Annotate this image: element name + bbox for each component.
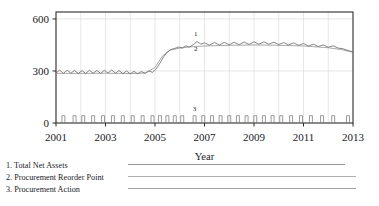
x-axis-tick-label: 2007: [194, 131, 217, 143]
x-axis-tick-label: 2001: [45, 131, 67, 143]
legend-label-3: 3. Procurement Action: [6, 185, 80, 194]
x-axis-tick-label: 2003: [95, 131, 118, 143]
chart-figure: 20012003200520072009201120130300600Year1…: [0, 0, 379, 206]
y-axis-tick-label: 0: [44, 117, 50, 129]
x-axis-tick-label: 2009: [243, 131, 266, 143]
curve-annotation-2: 2: [194, 45, 198, 53]
y-axis-tick-label: 300: [33, 65, 50, 77]
legend-label-1: 1. Total Net Assets: [6, 161, 68, 170]
curve-annotation-3: 3: [193, 105, 197, 113]
x-axis-tick-label: 2005: [144, 131, 167, 143]
series-procurement-action: [62, 116, 350, 123]
x-axis-title: Year: [195, 151, 215, 162]
x-axis-tick-label: 2013: [342, 131, 365, 143]
chart-svg: 20012003200520072009201120130300600Year1…: [0, 0, 379, 206]
y-axis-tick-label: 600: [33, 13, 50, 25]
legend-label-2: 2. Procurement Reorder Point: [6, 173, 104, 182]
curve-annotation-1: 1: [194, 30, 198, 38]
x-axis-tick-label: 2011: [293, 131, 315, 143]
